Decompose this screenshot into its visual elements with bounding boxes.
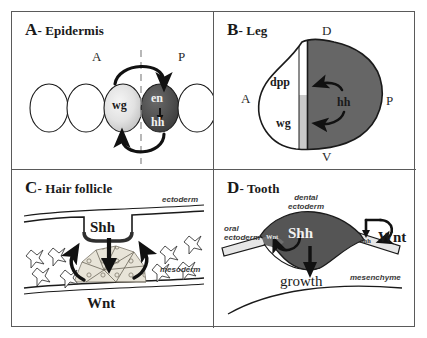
panel-a-label-anterior: A <box>92 50 101 63</box>
panel-b-leg: B- Leg <box>214 12 416 170</box>
signal-label-wnt-main: Wnt <box>378 230 406 245</box>
tissue-label-dental-ectoderm: dental ectoderm <box>288 194 324 212</box>
label-growth: growth <box>280 274 323 289</box>
signal-label-wnt-small: Wnt <box>266 234 278 241</box>
panel-a-label-posterior: P <box>178 50 185 63</box>
leg-ventral-stripe-wg <box>299 95 307 162</box>
panel-a-epidermis: A- Epidermis <box>12 12 214 170</box>
gene-label-hh: hh <box>151 116 164 128</box>
signal-label-shh: Shh <box>90 220 115 235</box>
tissue-label-oral-ectoderm: oral ectoderm <box>224 225 260 243</box>
leg-posterior-compartment <box>308 32 398 162</box>
gene-label-wg: wg <box>112 99 127 111</box>
signal-label-wnt: Wnt <box>87 296 115 311</box>
epidermis-cell-2 <box>67 84 105 132</box>
dental-ectoderm-line-1: dental <box>294 193 318 202</box>
arrow-wg-to-en <box>115 66 164 84</box>
gene-label-dpp: dpp <box>270 76 290 88</box>
panel-b-label-anterior: A <box>241 92 250 105</box>
panel-b-label-posterior: P <box>386 94 393 107</box>
epidermis-cell-1 <box>30 84 68 132</box>
leg-disc-fills <box>244 32 398 162</box>
tissue-label-mesoderm: mesoderm <box>160 266 200 274</box>
gene-label-hh: hh <box>337 96 350 108</box>
gene-label-wg: wg <box>276 117 291 129</box>
mesenchyme-arc <box>228 286 402 314</box>
signal-label-shh-main: Shh <box>288 226 313 241</box>
tissue-label-mesenchyme: mesenchyme <box>350 274 401 282</box>
gene-label-en: en <box>151 92 163 104</box>
panel-d-tooth: D- Tooth <box>214 170 416 328</box>
epidermis-cell-5 <box>178 84 214 132</box>
panel-b-label-dorsal: D <box>322 24 331 37</box>
tissue-label-ectoderm: ectoderm <box>162 196 198 204</box>
panel-b-label-ventral: V <box>322 150 331 163</box>
panel-a-diagram <box>12 12 214 170</box>
oral-ectoderm-line-1: oral <box>224 224 239 233</box>
oral-ectoderm-line-2: ectoderm <box>224 233 260 242</box>
arrow-hh-to-wg <box>122 134 164 152</box>
figure-frame: A- Epidermis <box>11 11 415 327</box>
signal-label-shh-small: Shh <box>360 238 371 245</box>
ectoderm-upper-line <box>24 205 204 216</box>
panel-c-hair-follicle: C- Hair follicle <box>12 170 214 328</box>
dental-ectoderm-line-2: ectoderm <box>288 202 324 211</box>
